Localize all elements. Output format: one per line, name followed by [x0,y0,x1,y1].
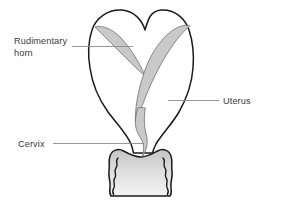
vagina-outline [109,150,172,196]
anatomical-diagram: Rudimentary horn Uterus Cervix [0,0,284,215]
label-rudimentary-horn-line1: Rudimentary [14,36,67,46]
vagina-group [109,150,172,196]
label-uterus: Uterus [223,96,251,106]
label-rudimentary-horn-line2: horn [14,48,33,58]
label-cervix: Cervix [18,139,45,149]
